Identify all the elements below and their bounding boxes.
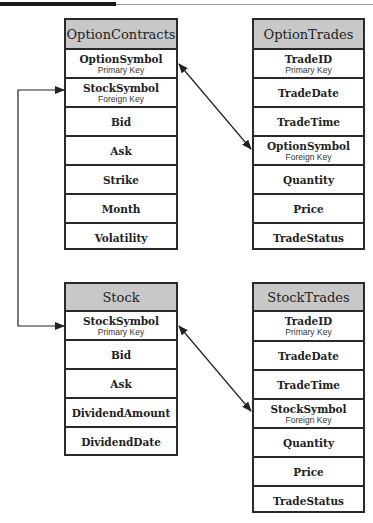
field-row: OptionSymbol Primary Key (66, 50, 176, 79)
table-header: Stock (66, 284, 176, 312)
field-name: StockSymbol (270, 403, 346, 415)
field-name: Quantity (283, 437, 334, 449)
field-name: OptionSymbol (79, 53, 162, 65)
table-header: OptionTrades (254, 20, 363, 50)
field-name: Strike (103, 174, 139, 186)
field-row: Price (254, 195, 363, 224)
field-name: StockSymbol (83, 82, 159, 94)
field-row: Quantity (254, 166, 363, 195)
field-name: Price (293, 203, 324, 215)
table-stock-trades: StockTrades TradeID Primary Key TradeDat… (252, 282, 365, 513)
field-name: TradeTime (277, 116, 340, 128)
table-header: OptionContracts (66, 20, 176, 50)
field-row: Bid (66, 341, 176, 370)
field-row: Quantity (254, 429, 363, 458)
field-name: TradeStatus (273, 495, 344, 507)
table-stock: Stock StockSymbol Primary Key Bid Ask Di… (64, 282, 178, 456)
field-name: TradeID (285, 315, 332, 327)
field-row: DividendAmount (66, 399, 176, 428)
field-row: DividendDate (66, 428, 176, 456)
table-option-contracts: OptionContracts OptionSymbol Primary Key… (64, 18, 178, 250)
field-name: TradeStatus (273, 232, 344, 244)
field-row: TradeID Primary Key (254, 50, 363, 79)
connector-optioncontracts-stock (18, 90, 64, 326)
table-option-trades: OptionTrades TradeID Primary Key TradeDa… (252, 18, 365, 250)
field-row: Strike (66, 166, 176, 195)
field-row: OptionSymbol Foreign Key (254, 137, 363, 166)
table-header: StockTrades (254, 284, 363, 312)
field-row: TradeStatus (254, 487, 363, 515)
field-row: TradeTime (254, 371, 363, 400)
field-row: StockSymbol Foreign Key (254, 400, 363, 429)
field-name: TradeID (285, 53, 332, 65)
field-name: TradeDate (278, 350, 339, 362)
field-name: Bid (111, 349, 131, 361)
connector-stock-stocktrades (179, 326, 251, 411)
field-row: Month (66, 195, 176, 224)
field-name: Month (102, 203, 141, 215)
field-row: TradeTime (254, 108, 363, 137)
field-row: StockSymbol Primary Key (66, 312, 176, 341)
field-name: StockSymbol (83, 315, 159, 327)
field-name: Ask (110, 145, 131, 157)
field-name: DividendDate (81, 436, 161, 448)
field-row: TradeStatus (254, 224, 363, 252)
field-name: OptionSymbol (267, 140, 350, 152)
top-rule-dark (0, 2, 116, 6)
key-label: Primary Key (98, 65, 144, 75)
field-name: Bid (111, 116, 131, 128)
field-row: StockSymbol Foreign Key (66, 79, 176, 108)
key-label: Primary Key (98, 327, 144, 337)
field-row: TradeID Primary Key (254, 312, 363, 342)
field-row: TradeDate (254, 79, 363, 108)
field-row: Bid (66, 108, 176, 137)
field-row: TradeDate (254, 342, 363, 371)
field-row: Volatility (66, 224, 176, 252)
field-name: Price (293, 466, 324, 478)
key-label: Primary Key (285, 327, 331, 337)
field-row: Ask (66, 370, 176, 399)
field-name: Quantity (283, 174, 334, 186)
field-name: TradeTime (277, 379, 340, 391)
field-row: Ask (66, 137, 176, 166)
field-row: Price (254, 458, 363, 487)
field-name: DividendAmount (72, 407, 171, 419)
top-rule-thin (116, 4, 373, 5)
key-label: Foreign Key (286, 152, 332, 162)
key-label: Foreign Key (286, 415, 332, 425)
key-label: Foreign Key (98, 94, 144, 104)
key-label: Primary Key (285, 65, 331, 75)
field-name: Ask (110, 378, 131, 390)
field-name: TradeDate (278, 87, 339, 99)
connector-optioncontracts-optiontrades (179, 64, 251, 149)
field-name: Volatility (95, 232, 148, 244)
